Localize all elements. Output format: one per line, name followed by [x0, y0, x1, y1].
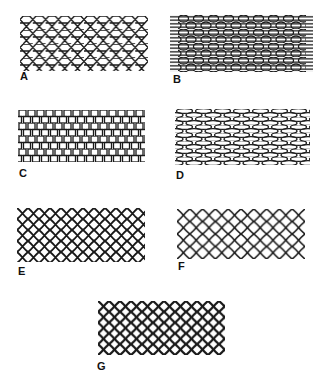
hexagon-strand-pattern: [170, 15, 313, 72]
open-diamond-pattern: [177, 209, 305, 259]
panel-label-f: F: [178, 261, 185, 272]
elongated-hexagon-pattern: [175, 109, 310, 165]
panel-b: [170, 15, 313, 72]
honeycomb-pattern: [20, 16, 148, 71]
brick-pattern: [18, 110, 145, 162]
panel-c: [18, 110, 145, 162]
panel-label-g: G: [97, 361, 106, 372]
panel-label-b: B: [173, 74, 181, 85]
panel-g: [98, 301, 225, 355]
panel-e: [17, 208, 145, 262]
panel-label-a: A: [20, 71, 28, 82]
rounded-diamond-pattern: [17, 208, 145, 262]
panel-label-e: E: [18, 266, 25, 277]
panel-d: [175, 109, 310, 165]
panel-f: [177, 209, 305, 259]
panel-a: [20, 16, 148, 71]
dense-rounded-diamond-pattern: [98, 301, 225, 355]
panel-label-d: D: [176, 170, 184, 181]
panel-label-c: C: [19, 168, 27, 179]
